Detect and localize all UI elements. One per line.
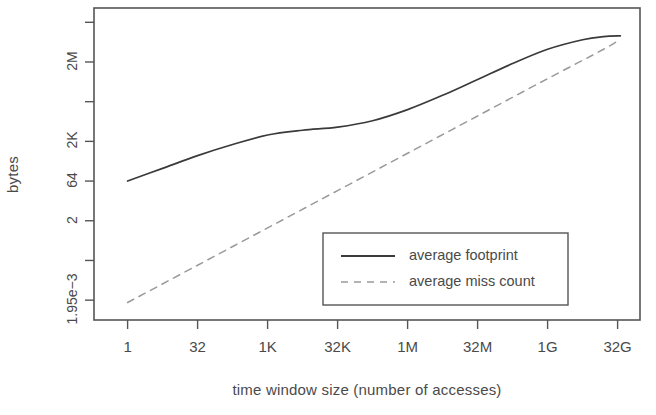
y-axis-title: bytes [4,145,21,205]
x-axis-ticks [128,320,618,329]
y-tick-label: 1.95e−3 [64,254,80,344]
x-tick-label: 32G [578,338,656,355]
legend-item-label: average footprint [409,247,518,263]
y-tick-label: 2M [64,16,80,106]
legend-box [323,233,568,305]
y-tick-label: 2 [64,175,80,265]
x-tick-label: 1G [508,338,588,355]
x-axis-title: time window size (number of accesses) [94,381,640,398]
x-tick-label: 1K [228,338,308,355]
x-tick-label: 1 [88,338,168,355]
x-tick-label: 32K [298,338,378,355]
x-tick-label: 1M [368,338,448,355]
x-tick-label: 32 [158,338,238,355]
chart-figure: bytes time window size (number of access… [0,0,656,415]
legend-item-label: average miss count [409,273,535,289]
x-tick-label: 32M [438,338,518,355]
y-axis-ticks [85,22,94,300]
series-line-1 [128,36,621,181]
